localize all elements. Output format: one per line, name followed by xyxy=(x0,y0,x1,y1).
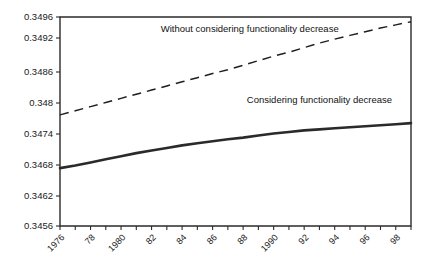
y-axis-tick-label: 0.348 xyxy=(29,97,53,108)
x-axis-tick-label: 82 xyxy=(144,232,158,246)
y-axis-tick-label: 0.3468 xyxy=(24,159,53,170)
x-axis-tick-label: 88 xyxy=(235,232,249,246)
series-considering-functionality-decrease xyxy=(60,123,411,168)
x-axis-tick-labels: 197678198082848688199092949698 xyxy=(45,232,402,253)
x-axis-tick-label: 98 xyxy=(388,232,402,246)
y-axis-tick-labels: 0.34560.34620.34680.34740.3480.34860.349… xyxy=(24,11,53,231)
x-axis-tick-label: 78 xyxy=(83,232,97,246)
y-axis-tick-label: 0.3456 xyxy=(24,220,53,231)
chart-container: 0.34560.34620.34680.34740.3480.34860.349… xyxy=(0,0,424,268)
y-axis-tick-label: 0.3462 xyxy=(24,190,53,201)
x-axis-tick-label: 92 xyxy=(296,232,310,246)
annotation-without-considering-functionality-decrease: Without considering functionality decrea… xyxy=(161,23,339,34)
annotation-considering-functionality-decrease: Considering functionality decrease xyxy=(247,94,392,105)
x-axis-tick-label: 96 xyxy=(357,232,371,246)
y-axis-tick-label: 0.3474 xyxy=(24,128,53,139)
y-axis-tick-label: 0.3496 xyxy=(24,11,53,22)
plot-frame xyxy=(60,17,411,226)
line-chart: 0.34560.34620.34680.34740.3480.34860.349… xyxy=(0,0,424,268)
y-axis-tick-label: 0.3492 xyxy=(24,32,53,43)
x-axis-tick-label: 1990 xyxy=(259,232,280,253)
x-axis-tick-label: 84 xyxy=(174,232,188,246)
x-axis-tick-label: 94 xyxy=(327,232,341,246)
x-axis-tick-label: 1980 xyxy=(106,232,127,253)
x-axis-tick-label: 86 xyxy=(205,232,219,246)
y-axis-tick-label: 0.3486 xyxy=(24,66,53,77)
x-axis-tick-label: 1976 xyxy=(45,232,66,253)
